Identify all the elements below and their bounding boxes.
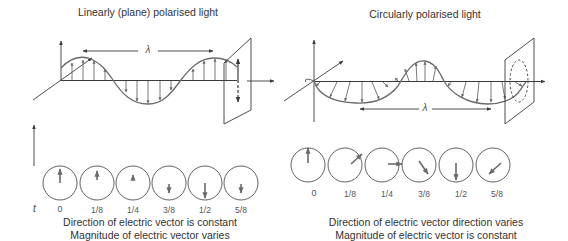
time-label-0: 0 [57, 204, 62, 214]
time-label-1-2: 1/2 [455, 189, 467, 199]
vector-down-right-arrow [419, 161, 428, 174]
polarisation-diagram [0, 0, 568, 241]
circle-t1-8 [328, 148, 362, 182]
linear-wave-diagram [33, 38, 274, 124]
linear-time-circles [43, 166, 258, 200]
circle-t5-8 [224, 166, 258, 200]
time-axis-label: t [33, 203, 36, 214]
circle-t3-8 [152, 166, 186, 200]
time-label-1-4: 1/4 [127, 205, 139, 215]
linear-caption-line1: Direction of electric vector is constant [63, 216, 237, 229]
time-label-0: 0 [311, 188, 316, 198]
circle-t5-8 [476, 148, 510, 182]
time-label-5-8: 5/8 [235, 205, 247, 215]
time-label-5-8: 5/8 [491, 189, 503, 199]
wavelength-label: λ [423, 102, 428, 113]
vector-up-right-arrow [351, 154, 362, 164]
time-label-1-4: 1/4 [381, 189, 393, 199]
circle-t1-4 [116, 166, 150, 200]
circle-t1-4 [365, 148, 399, 182]
time-label-3-8: 3/8 [163, 205, 175, 215]
circular-time-circles [291, 148, 510, 182]
circular-caption-line1: Direction of electric vector direction v… [329, 216, 523, 229]
circular-caption-line2: Magnitude of electric vector is constant [329, 229, 523, 241]
circular-circle-vectors [308, 148, 501, 180]
circle-t3-8 [402, 148, 436, 182]
wavelength-label: λ [146, 44, 151, 55]
circular-caption: Direction of electric vector direction v… [329, 216, 523, 241]
linear-circle-vectors [60, 169, 241, 198]
circular-wave-diagram [284, 38, 545, 124]
time-label-1-8: 1/8 [91, 205, 103, 215]
linear-caption: Direction of electric vector is constant… [63, 216, 237, 241]
vector-down-left-arrow [489, 163, 501, 174]
time-label-1-8: 1/8 [344, 189, 356, 199]
time-label-3-8: 3/8 [418, 189, 430, 199]
time-label-1-2: 1/2 [199, 205, 211, 215]
linear-caption-line2: Magnitude of electric vector varies [63, 229, 237, 241]
